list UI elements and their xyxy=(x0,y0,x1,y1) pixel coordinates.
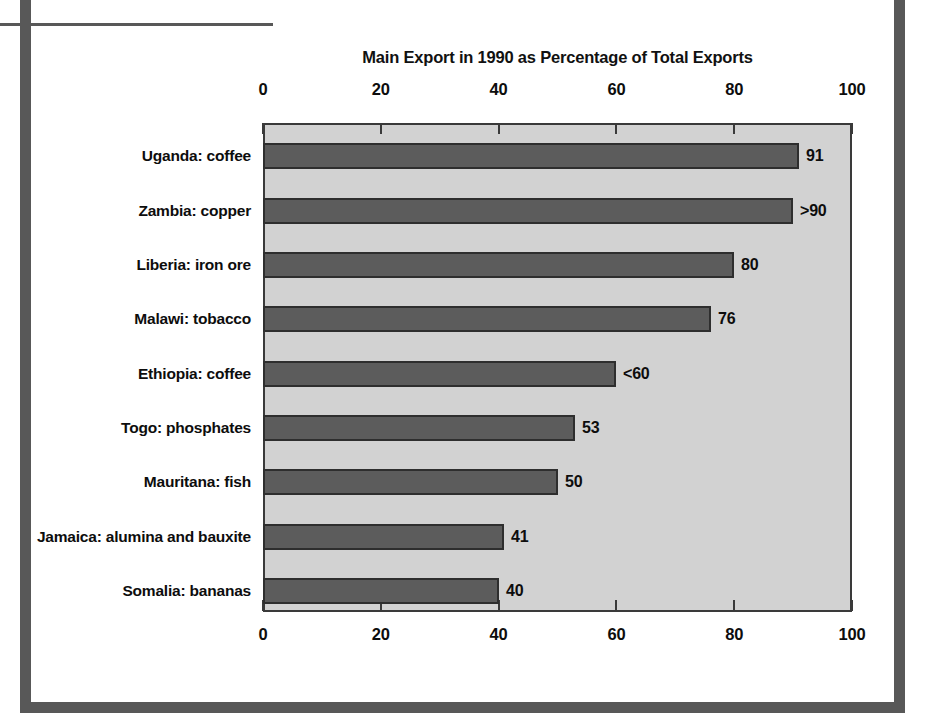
x-tick-label-bottom-80: 80 xyxy=(725,625,743,644)
x-tick-label-bottom-100: 100 xyxy=(839,625,866,644)
category-label: Jamaica: alumina and bauxite xyxy=(37,524,251,550)
category-label: Togo: phosphates xyxy=(121,415,251,441)
bar xyxy=(263,361,616,387)
bar xyxy=(263,415,575,441)
x-tick-label-top-40: 40 xyxy=(490,80,508,99)
x-tick-mark-bottom-100 xyxy=(851,600,853,611)
x-tick-label-bottom-20: 20 xyxy=(372,625,390,644)
bar xyxy=(263,469,558,495)
x-tick-label-top-0: 0 xyxy=(259,80,268,99)
bar xyxy=(263,524,504,550)
x-tick-mark-top-20 xyxy=(380,123,382,134)
bar-chart: Main Export in 1990 as Percentage of Tot… xyxy=(0,0,925,725)
category-label: Mauritana: fish xyxy=(144,469,251,495)
category-label: Malawi: tobacco xyxy=(134,306,251,332)
category-label: Uganda: coffee xyxy=(142,143,251,169)
bar-value-label: 53 xyxy=(582,415,599,441)
x-tick-label-top-80: 80 xyxy=(725,80,743,99)
x-tick-mark-bottom-60 xyxy=(615,600,617,611)
x-tick-mark-top-40 xyxy=(498,123,500,134)
bar-value-label: 80 xyxy=(741,252,758,278)
x-tick-label-bottom-60: 60 xyxy=(607,625,625,644)
bar-value-label: 41 xyxy=(511,524,528,550)
bar-value-label: 76 xyxy=(718,306,735,332)
bar-value-label: 50 xyxy=(565,469,582,495)
bar-value-label: 91 xyxy=(806,143,823,169)
category-label: Zambia: copper xyxy=(138,198,251,224)
bar-value-label: >90 xyxy=(800,198,827,224)
category-label: Somalia: bananas xyxy=(122,578,251,604)
bar-value-label: <60 xyxy=(623,361,650,387)
x-tick-label-bottom-40: 40 xyxy=(490,625,508,644)
x-tick-label-bottom-0: 0 xyxy=(259,625,268,644)
x-tick-mark-top-100 xyxy=(851,123,853,134)
bar xyxy=(263,252,734,278)
x-tick-mark-bottom-80 xyxy=(733,600,735,611)
chart-title: Main Export in 1990 as Percentage of Tot… xyxy=(263,48,852,67)
bar xyxy=(263,143,799,169)
category-label: Ethiopia: coffee xyxy=(138,361,251,387)
x-tick-mark-top-0 xyxy=(262,123,264,134)
x-tick-mark-top-60 xyxy=(615,123,617,134)
x-tick-label-top-100: 100 xyxy=(839,80,866,99)
x-tick-label-top-20: 20 xyxy=(372,80,390,99)
x-tick-label-top-60: 60 xyxy=(607,80,625,99)
bar xyxy=(263,306,711,332)
bar xyxy=(263,578,499,604)
x-tick-mark-top-80 xyxy=(733,123,735,134)
bar xyxy=(263,198,793,224)
category-label: Liberia: iron ore xyxy=(136,252,251,278)
bar-value-label: 40 xyxy=(506,578,523,604)
